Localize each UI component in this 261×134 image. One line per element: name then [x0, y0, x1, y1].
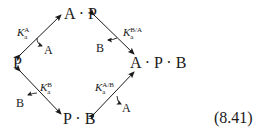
species-b-top-right: B [96, 42, 104, 54]
constant-ka-a: KAa [17, 27, 29, 41]
constant-ka-a-over-b: KA/Ba [95, 82, 114, 96]
reaction-scheme-diagram: A · P P A · P · B P · B KAa KB/Aa KBa KA… [0, 0, 261, 134]
node-pb: P · B [63, 111, 95, 127]
species-a-top-left: A [44, 44, 53, 56]
release-arrow-bottom-left [28, 93, 37, 95]
node-apb: A · P · B [130, 55, 186, 71]
constant-ka-b-over-a: KB/Aa [123, 27, 142, 41]
constant-ka-b: KBa [40, 82, 52, 96]
species-a-bottom-right: A [122, 102, 131, 114]
release-arrow-top-right [108, 38, 117, 40]
node-p: P [13, 55, 22, 71]
node-ap: A · P [64, 6, 97, 22]
release-arrow-top-left [37, 38, 42, 46]
release-arrow-bottom-right [117, 96, 121, 104]
species-b-bottom-left: B [16, 97, 24, 109]
equation-number: (8.41) [214, 110, 253, 126]
